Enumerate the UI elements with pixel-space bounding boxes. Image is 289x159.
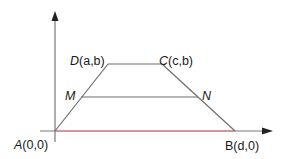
- y-axis-arrow-icon: [52, 11, 59, 21]
- label-point-b: B(d,0): [225, 140, 259, 153]
- trapezoid-diagram: [0, 0, 289, 159]
- label-point-c: C(c,b): [159, 55, 193, 68]
- label-point-m: M: [65, 90, 75, 103]
- x-axis-arrow-icon: [262, 128, 273, 135]
- label-point-a: A(0,0): [14, 139, 48, 152]
- label-point-n: N: [202, 90, 211, 103]
- label-point-d: D(a,b): [70, 55, 105, 68]
